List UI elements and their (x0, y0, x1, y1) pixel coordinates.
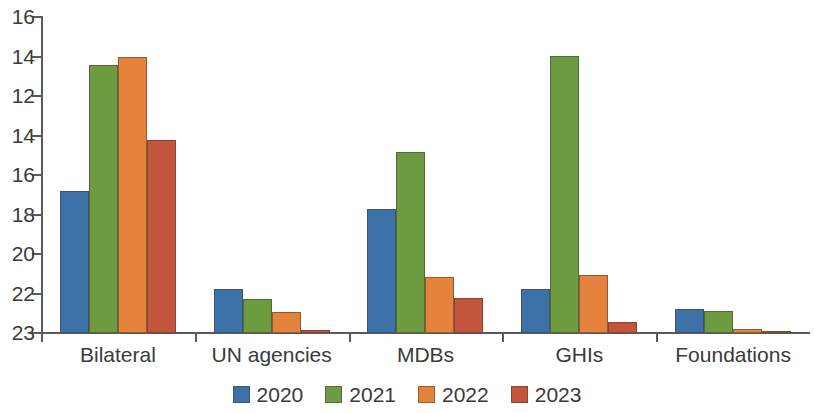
y-tick-label: 18 (12, 203, 35, 224)
y-tick-label: 20 (12, 243, 35, 264)
x-tick-label: Foundations (675, 344, 791, 365)
legend-item: 2021 (325, 384, 396, 405)
bar (550, 56, 579, 333)
y-tick-label: 16 (12, 164, 35, 185)
bar (214, 289, 243, 333)
bar (396, 152, 425, 333)
legend-label: 2023 (535, 384, 582, 405)
bar (367, 209, 396, 333)
bar (89, 65, 118, 333)
bar (147, 140, 176, 333)
bar (675, 309, 704, 333)
legend-swatch-icon (325, 386, 342, 403)
bar-group (195, 16, 349, 333)
bar (704, 311, 733, 333)
x-tick-label: UN agencies (212, 344, 332, 365)
bar (272, 312, 301, 333)
plot-area (41, 16, 810, 333)
legend-swatch-icon (511, 386, 528, 403)
x-tick-mark (502, 332, 504, 342)
x-tick-mark (195, 332, 197, 342)
legend-item: 2023 (511, 384, 582, 405)
legend-swatch-icon (418, 386, 435, 403)
bar (579, 275, 608, 333)
bar-group (502, 16, 656, 333)
y-tick-label: 14 (12, 124, 35, 145)
bar (118, 57, 147, 333)
y-tick-label: 16 (12, 6, 35, 27)
bar (762, 331, 791, 333)
bar (425, 277, 454, 333)
y-tick-label: 23 (12, 322, 35, 343)
legend-item: 2020 (233, 384, 304, 405)
legend-label: 2022 (442, 384, 489, 405)
legend-label: 2020 (257, 384, 304, 405)
bar-group (41, 16, 195, 333)
bar (521, 289, 550, 333)
bar (454, 298, 483, 333)
bar (301, 330, 330, 333)
bar (733, 329, 762, 333)
x-tick-mark (656, 332, 658, 342)
x-tick-mark (349, 332, 351, 342)
bar (60, 191, 89, 333)
y-tick-label: 12 (12, 85, 35, 106)
x-tick-label: Bilateral (80, 344, 156, 365)
chart-legend: 2020202120222023 (0, 384, 814, 405)
y-tick-label: 14 (12, 45, 35, 66)
legend-swatch-icon (233, 386, 250, 403)
y-tick-label: 22 (12, 282, 35, 303)
x-tick-label: GHIs (555, 344, 603, 365)
legend-item: 2022 (418, 384, 489, 405)
bar (243, 299, 272, 333)
legend-label: 2021 (349, 384, 396, 405)
bar-group (656, 16, 810, 333)
bar-group (349, 16, 503, 333)
bar (608, 322, 637, 333)
x-tick-mark (41, 332, 43, 342)
bar-chart: 161412141618202223 BilateralUN agenciesM… (0, 0, 814, 413)
x-tick-label: MDBs (397, 344, 454, 365)
